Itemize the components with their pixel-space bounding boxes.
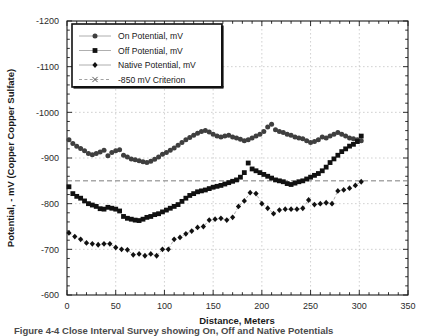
y-tick-label: -1200 xyxy=(36,16,59,26)
legend-label: Off Potential, mV xyxy=(118,46,183,56)
y-tick-label: -800 xyxy=(41,199,59,209)
caption-text: Figure 4-4 Close Interval Survey showing… xyxy=(14,325,333,336)
y-tick-label: -1100 xyxy=(37,62,59,72)
data-point-circle xyxy=(117,147,122,152)
legend-label: -850 mV Criterion xyxy=(118,75,186,85)
x-tick-label: 50 xyxy=(111,301,121,311)
y-tick-label: -1000 xyxy=(36,108,59,118)
legend-marker-square-marker xyxy=(93,48,98,53)
x-tick-label: 100 xyxy=(157,301,172,311)
data-point-square xyxy=(324,165,329,170)
data-point-circle xyxy=(93,34,98,39)
data-point-circle xyxy=(105,153,110,158)
data-point-circle xyxy=(269,122,274,127)
data-point-square xyxy=(355,139,360,144)
data-point-square xyxy=(238,175,243,180)
data-point-square xyxy=(117,209,122,214)
data-point-square xyxy=(359,134,364,139)
potential-survey-chart: 050100150200250300350 -1200-1100-1000-90… xyxy=(0,0,424,336)
legend-label: On Potential, mV xyxy=(118,31,183,41)
data-point-circle xyxy=(66,137,71,142)
y-tick-label: -600 xyxy=(41,290,59,300)
data-point-square xyxy=(67,184,72,189)
legend-box-shadow-bottom xyxy=(74,86,224,89)
x-tick-label: 250 xyxy=(303,301,318,311)
x-tick-label: 150 xyxy=(206,301,221,311)
y-tick-label: -700 xyxy=(41,245,59,255)
data-point-square xyxy=(93,48,98,53)
x-tick-label: 350 xyxy=(400,301,415,311)
data-point-circle xyxy=(102,148,107,153)
legend-marker-circle-marker xyxy=(93,34,98,39)
data-point-circle xyxy=(261,129,266,134)
x-tick-label: 200 xyxy=(254,301,269,311)
y-axis-label: Potential, - mV (Copper Copper Sulfate) xyxy=(5,69,16,247)
x-tick-label: 300 xyxy=(352,301,367,311)
legend-box-shadow-right xyxy=(221,26,224,88)
chart-legend: On Potential, mVOff Potential, mVNative … xyxy=(72,24,224,89)
x-tick-label: 0 xyxy=(64,301,69,311)
figure-container: 050100150200250300350 -1200-1100-1000-90… xyxy=(0,0,424,336)
data-point-square xyxy=(242,170,247,175)
figure-caption: Figure 4-4 Close Interval Survey showing… xyxy=(14,325,333,336)
legend-label: Native Potential, mV xyxy=(118,60,196,70)
y-tick-label: -900 xyxy=(41,153,59,163)
data-point-square xyxy=(246,161,251,166)
